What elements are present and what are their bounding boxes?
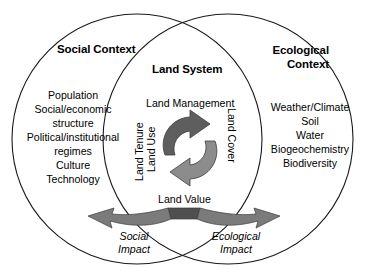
ecological-impact-line2: Impact — [203, 243, 269, 256]
cycle-arrow-lower — [170, 141, 217, 186]
ecological-context-item: Water — [258, 128, 362, 142]
social-context-item: Population — [18, 88, 128, 102]
social-impact-arrow — [88, 208, 171, 228]
social-impact-line2: Impact — [104, 243, 164, 256]
social-context-item-list: Population Social/economic structure Pol… — [18, 88, 128, 187]
land-system-heading: Land System — [152, 62, 222, 76]
impact-ribbon-arrows — [88, 208, 280, 228]
ecological-context-item: Soil — [258, 114, 362, 128]
land-system-venn-diagram: Social Context Ecological Context Land S… — [0, 0, 365, 276]
ecological-context-item: Weather/Climate — [258, 100, 362, 114]
land-management-label: Land Management — [146, 97, 234, 110]
ecological-context-item-list: Weather/Climate Soil Water Biogeochemist… — [258, 100, 362, 170]
social-impact-label: Social Impact — [104, 230, 164, 256]
ecological-impact-label: Ecological Impact — [203, 230, 269, 256]
land-cycle-arrows — [163, 110, 217, 186]
social-impact-line1: Social — [104, 230, 164, 243]
social-context-item: Culture — [18, 158, 128, 172]
cycle-arrow-upper — [163, 110, 210, 155]
land-use-label: Land Use — [145, 127, 157, 172]
land-tenure-label: Land Tenure — [133, 122, 145, 181]
ecological-impact-arrow — [197, 208, 280, 228]
land-cover-label: Land Cover — [226, 108, 238, 163]
ecological-context-heading: Ecological Context — [243, 43, 329, 71]
social-context-item: regimes — [18, 144, 128, 158]
ecological-context-heading-line2: Context — [287, 58, 329, 70]
ecological-context-item: Biodiversity — [258, 156, 362, 170]
social-context-item: Technology — [18, 172, 128, 186]
land-value-label: Land Value — [158, 193, 211, 206]
social-context-heading: Social Context — [57, 42, 135, 56]
social-context-item: structure — [18, 116, 128, 130]
ecological-impact-line1: Ecological — [203, 230, 269, 243]
social-context-item: Social/economic — [18, 102, 128, 116]
social-context-item: Political/institutional — [18, 130, 128, 144]
ecological-context-item: Biogeochemistry — [258, 142, 362, 156]
land-value-stem — [168, 208, 200, 219]
ecological-context-heading-line1: Ecological — [272, 44, 329, 56]
